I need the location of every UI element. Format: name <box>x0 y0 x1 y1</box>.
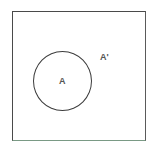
set-a-label: A <box>59 77 66 86</box>
venn-diagram: A A' <box>0 0 162 152</box>
complement-a-label: A' <box>100 53 109 62</box>
